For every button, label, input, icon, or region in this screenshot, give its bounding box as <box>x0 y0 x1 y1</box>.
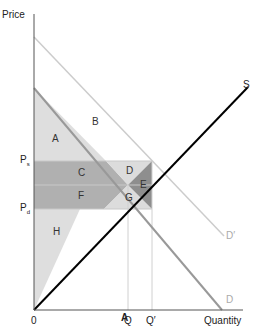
area-h-fill <box>34 209 80 310</box>
demand-label: D <box>226 295 233 305</box>
supply-label: S <box>243 80 250 90</box>
area-f-label: F <box>78 191 84 201</box>
area-g-label: G <box>125 193 133 203</box>
area-h-label: H <box>53 227 60 237</box>
area-b-label: B <box>92 117 99 127</box>
x-axis-label: Quantity <box>204 316 241 326</box>
ps-label: Ps <box>20 155 30 167</box>
pd-label: Pd <box>20 203 30 215</box>
q-prime-label: Q′ <box>146 316 156 326</box>
area-e-label: E <box>140 180 147 190</box>
figure-caption: A <box>121 312 128 323</box>
area-c-label: C <box>78 168 85 178</box>
area-d-label: D <box>126 166 133 176</box>
demand-shifted-label: D′ <box>226 231 235 241</box>
area-a-label: A <box>52 134 59 144</box>
y-axis-label: Price <box>2 10 25 20</box>
origin-label: 0 <box>31 316 37 326</box>
